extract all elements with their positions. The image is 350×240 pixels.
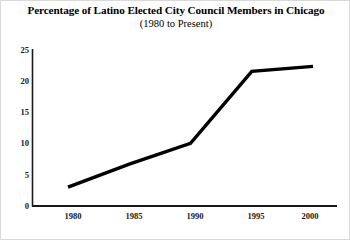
plot-area: 25 20 15 10 5 0 1980 1985 1990 1995 2000	[1, 1, 350, 240]
y-tick-label-5: 5	[7, 171, 29, 180]
x-tick-label-1985: 1985	[111, 212, 157, 221]
y-tick-label-15: 15	[7, 108, 29, 117]
y-tick-label-0: 0	[7, 202, 29, 211]
y-tick-label-25: 25	[7, 46, 29, 55]
chart-screenshot: Percentage of Latino Elected City Counci…	[0, 0, 350, 240]
y-tick-label-20: 20	[7, 77, 29, 86]
x-tick-label-1990: 1990	[172, 212, 218, 221]
y-tick-label-10: 10	[7, 139, 29, 148]
x-tick-label-1980: 1980	[50, 212, 96, 221]
chart-plot-svg	[1, 1, 350, 240]
data-series-line	[68, 66, 313, 187]
x-tick-label-2000: 2000	[287, 212, 333, 221]
x-tick-label-1995: 1995	[233, 212, 279, 221]
